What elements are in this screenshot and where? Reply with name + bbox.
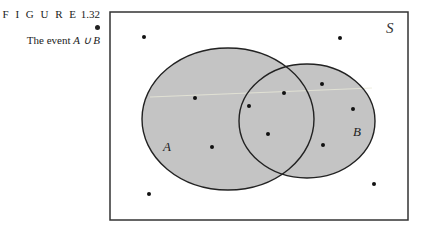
- sample-space-label: S: [386, 20, 394, 36]
- outcome-point: [321, 143, 325, 147]
- set-b-label: B: [353, 124, 361, 139]
- outcome-point: [247, 104, 251, 108]
- venn-diagram: S A B: [0, 0, 433, 236]
- outcome-point: [210, 145, 214, 149]
- outcome-point: [282, 91, 286, 95]
- outcome-point: [142, 35, 146, 39]
- outcome-point: [193, 96, 197, 100]
- set-a-label: A: [162, 139, 171, 154]
- outcome-point: [351, 107, 355, 111]
- outcome-point: [266, 132, 270, 136]
- outcome-point: [147, 192, 151, 196]
- outcome-point: [320, 82, 324, 86]
- outcome-point: [372, 182, 376, 186]
- outcome-point: [338, 36, 342, 40]
